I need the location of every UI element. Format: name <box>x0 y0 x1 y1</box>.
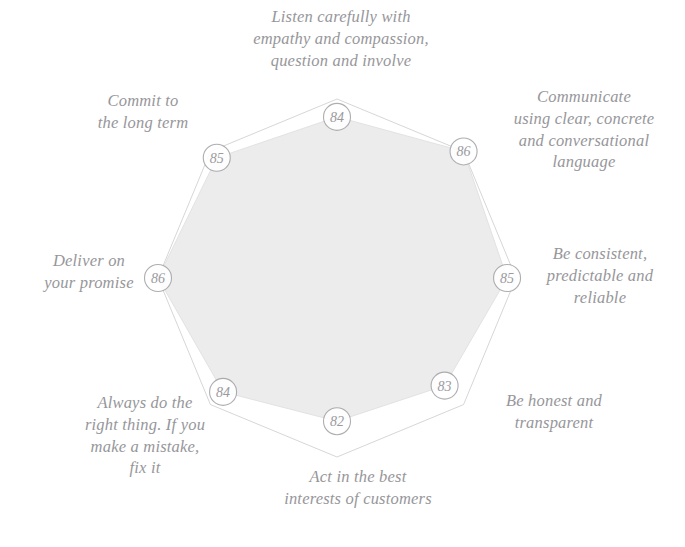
axis-label-communicate: Communicate using clear, concrete and co… <box>486 86 682 173</box>
marker-value-0: 84 <box>330 110 344 125</box>
axis-label-consistent: Be consistent, predictable and reliable <box>520 243 680 308</box>
marker-value-4: 82 <box>330 414 344 429</box>
radar-chart-page: 8486858382848685 Listen carefully with e… <box>0 0 685 547</box>
axis-label-commit: Commit to the long term <box>52 90 234 134</box>
marker-value-2: 85 <box>500 271 514 286</box>
axis-label-honest: Be honest and transparent <box>472 390 636 434</box>
axis-label-deliver: Deliver on your promise <box>16 250 162 294</box>
marker-value-1: 86 <box>457 144 471 159</box>
value-marker-3: 83 <box>431 372 458 399</box>
value-marker-4: 82 <box>324 408 351 435</box>
value-marker-2: 85 <box>494 265 521 292</box>
axis-label-right-thing: Always do the right thing. If you make a… <box>52 392 238 479</box>
value-marker-0: 84 <box>324 103 351 130</box>
value-marker-7: 85 <box>203 144 230 171</box>
marker-value-7: 85 <box>210 151 224 166</box>
marker-value-3: 83 <box>438 379 452 394</box>
axis-label-interests: Act in the best interests of customers <box>242 466 474 510</box>
value-marker-1: 86 <box>450 138 477 165</box>
axis-label-listen: Listen carefully with empathy and compas… <box>202 6 480 71</box>
